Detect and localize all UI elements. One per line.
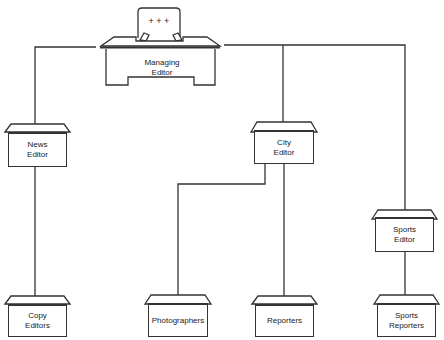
node-reporters: Reporters: [252, 294, 317, 337]
city-editor-label: City Editor: [254, 130, 314, 164]
node-photographers: Photographers: [145, 293, 211, 337]
node-sports-editor: Sports Editor: [372, 207, 437, 252]
sports-reporters-label: Sports Reporters: [377, 303, 436, 337]
managing-editor-label: Managing Editor: [100, 58, 224, 78]
node-news-editor: News Editor: [5, 122, 70, 167]
copy-editors-label: Copy Editors: [8, 304, 67, 337]
reporters-label: Reporters: [255, 304, 314, 337]
sports-editor-label: Sports Editor: [375, 217, 434, 252]
node-sports-reporters: Sports Reporters: [374, 293, 439, 337]
edge-city-photographers: [178, 162, 265, 296]
node-city-editor: City Editor: [251, 120, 317, 164]
news-editor-label: News Editor: [8, 132, 67, 167]
node-copy-editors: Copy Editors: [5, 294, 70, 337]
node-managing-editor: Managing Editor: [100, 6, 224, 86]
photographers-label: Photographers: [148, 303, 208, 337]
edge-me-news: [35, 47, 96, 124]
